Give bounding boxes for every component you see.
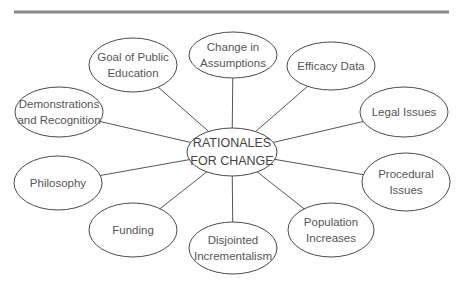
node-efficacy-data: Efficacy Data [287, 42, 375, 90]
node-label: Funding [112, 224, 154, 236]
node-label: Change in [207, 41, 259, 53]
node-population-increases: PopulationIncreases [288, 203, 374, 257]
node-philosophy: Philosophy [14, 156, 102, 210]
node-label: Education [107, 67, 158, 79]
node-ellipse [288, 203, 374, 257]
top-rule [14, 11, 449, 14]
node-label: Assumptions [200, 57, 266, 69]
node-label: Philosophy [30, 177, 87, 189]
node-label: Increases [306, 232, 356, 244]
nodes: Goal of PublicEducationChange inAssumpti… [14, 32, 450, 274]
node-label: Issues [389, 184, 422, 196]
node-label: RATIONALES [193, 136, 271, 150]
node-ellipse [189, 32, 277, 78]
node-change-in-assumptions: Change inAssumptions [189, 32, 277, 78]
node-funding: Funding [89, 203, 177, 257]
node-legal-issues: Legal Issues [360, 87, 448, 137]
node-procedural-issues: ProceduralIssues [362, 153, 450, 211]
node-label: Efficacy Data [297, 60, 365, 72]
node-label: FOR CHANGE [190, 154, 273, 168]
node-label: Population [304, 216, 358, 228]
concept-map: Goal of PublicEducationChange inAssumpti… [0, 0, 463, 288]
node-center: RATIONALESFOR CHANGE [187, 128, 277, 176]
node-label: Goal of Public [97, 51, 169, 63]
node-label: Disjointed [208, 234, 259, 246]
node-goal-of-public-education: Goal of PublicEducation [89, 38, 177, 92]
node-ellipse [189, 222, 277, 274]
node-ellipse [15, 87, 103, 137]
node-label: and Recognition [17, 114, 100, 126]
node-label: Legal Issues [372, 106, 437, 118]
node-disjointed-incrementalism: DisjointedIncrementalism [189, 222, 277, 274]
node-ellipse [362, 153, 450, 211]
node-ellipse [89, 38, 177, 92]
node-label: Incrementalism [194, 250, 272, 262]
node-label: Demonstrations [19, 98, 100, 110]
node-demonstrations-and-recognition: Demonstrationsand Recognition [15, 87, 103, 137]
node-label: Procedural [378, 168, 434, 180]
